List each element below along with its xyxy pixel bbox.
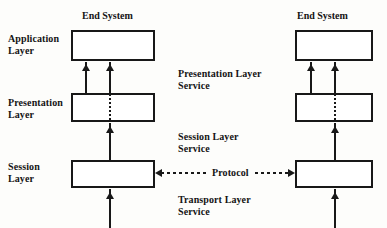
layer-label-session: Session Layer [8, 161, 40, 185]
protocol-dashed-line-left-segment [161, 172, 208, 174]
box-session-layer-left [71, 160, 155, 188]
layer-label-application: Application Layer [8, 33, 59, 57]
end-system-title-right: End System [297, 10, 348, 22]
arrowhead-up-left-app-a [82, 64, 90, 71]
service-label-presentation: Presentation Layer Service [178, 68, 262, 92]
end-system-title-left: End System [82, 10, 133, 22]
arrowhead-up-left-app-b [106, 64, 114, 71]
osi-layer-service-diagram: End System End System Application Layer … [0, 0, 387, 228]
arrowhead-up-right-app-a [307, 64, 315, 71]
box-application-layer-right [295, 30, 373, 61]
arrowhead-up-left-presentation [106, 126, 114, 133]
service-label-session: Session Layer Service [178, 131, 238, 155]
internal-dashed-line-presentation-left [109, 94, 111, 121]
service-label-transport: Transport Layer Service [178, 194, 251, 218]
arrowhead-up-left-session [106, 192, 114, 199]
box-session-layer-right [295, 160, 373, 188]
arrowhead-right-protocol [288, 169, 295, 177]
protocol-dashed-line-right-segment [255, 172, 288, 174]
arrowhead-up-right-app-b [331, 64, 339, 71]
arrowhead-left-protocol [155, 169, 162, 177]
arrowhead-up-right-session [331, 192, 339, 199]
box-presentation-layer-left [71, 93, 155, 122]
protocol-label: Protocol [212, 167, 249, 179]
box-application-layer-left [71, 30, 155, 61]
arrowhead-up-right-presentation [331, 126, 339, 133]
layer-label-presentation: Presentation Layer [8, 97, 63, 121]
internal-dashed-line-presentation-right [334, 94, 336, 121]
